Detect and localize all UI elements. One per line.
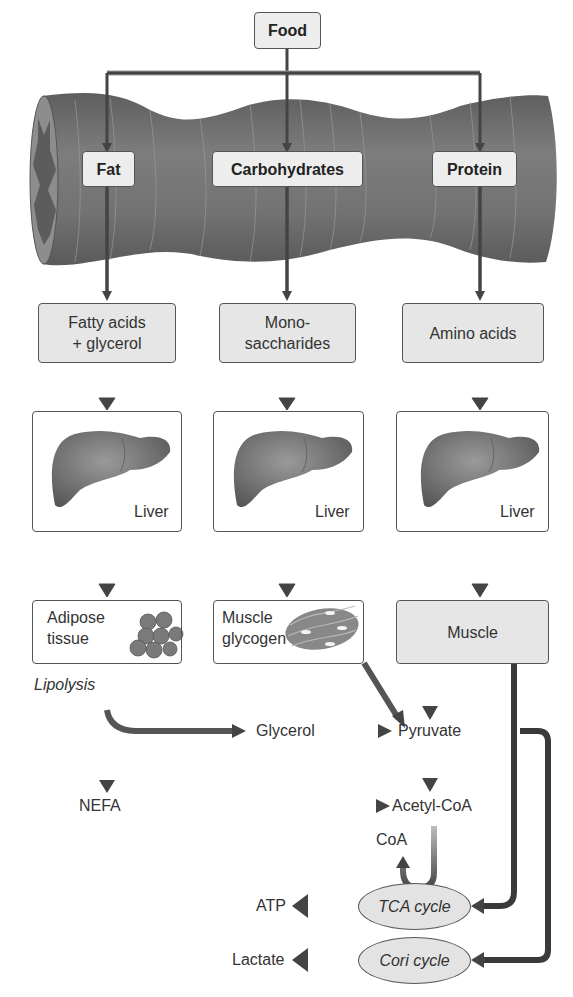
amino-acids-label: Amino acids — [429, 323, 516, 344]
cori-cycle-node: Cori cycle — [358, 937, 471, 984]
fatty-acids-label: Fatty acids — [68, 312, 145, 333]
amino-acids-box: Amino acids — [402, 303, 544, 363]
tca-cycle-label: TCA cycle — [378, 898, 450, 916]
glycogen-label: glycogen — [222, 628, 286, 649]
cori-cycle-label: Cori cycle — [379, 952, 449, 970]
atp-label: ATP — [256, 897, 286, 915]
muscle-box: Muscle — [396, 600, 549, 664]
food-label: Food — [268, 20, 307, 41]
muscle-label: Muscle — [222, 607, 273, 628]
protein-box: Protein — [432, 151, 517, 187]
carbohydrates-box: Carbohydrates — [212, 151, 363, 187]
tca-cycle-node: TCA cycle — [358, 883, 471, 930]
muscle-tissue-label: Muscle — [447, 622, 498, 643]
acetyl-coa-label: Acetyl-CoA — [392, 797, 472, 815]
fatty-acids-box: Fatty acids + glycerol — [38, 303, 176, 363]
fat-label: Fat — [97, 159, 121, 180]
metabolic-arrows — [99, 663, 548, 972]
protein-label: Protein — [447, 159, 502, 180]
adipose-label: Adipose — [47, 607, 105, 628]
glycerol-metabolite-label: Glycerol — [256, 722, 315, 740]
liver-label-fat: Liver — [134, 503, 169, 521]
saccharides-label: saccharides — [245, 333, 330, 354]
lactate-label: Lactate — [232, 951, 284, 969]
lipolysis-label: Lipolysis — [34, 676, 95, 694]
carbohydrates-label: Carbohydrates — [231, 159, 344, 180]
liver-label-protein: Liver — [500, 503, 535, 521]
nefa-label: NEFA — [79, 797, 121, 815]
food-box: Food — [254, 12, 321, 49]
monosaccharides-box: Mono- saccharides — [219, 303, 356, 363]
fat-box: Fat — [82, 151, 135, 187]
pyruvate-label: Pyruvate — [398, 722, 461, 740]
glycerol-label: + glycerol — [73, 333, 142, 354]
muscle-glycogen-box: Muscle glycogen — [213, 600, 364, 664]
mono-label: Mono- — [265, 312, 310, 333]
adipose-tissue-box: Adipose tissue — [32, 600, 182, 664]
tissue-label: tissue — [47, 628, 89, 649]
coa-label: CoA — [376, 831, 407, 849]
liver-label-carb: Liver — [315, 503, 350, 521]
